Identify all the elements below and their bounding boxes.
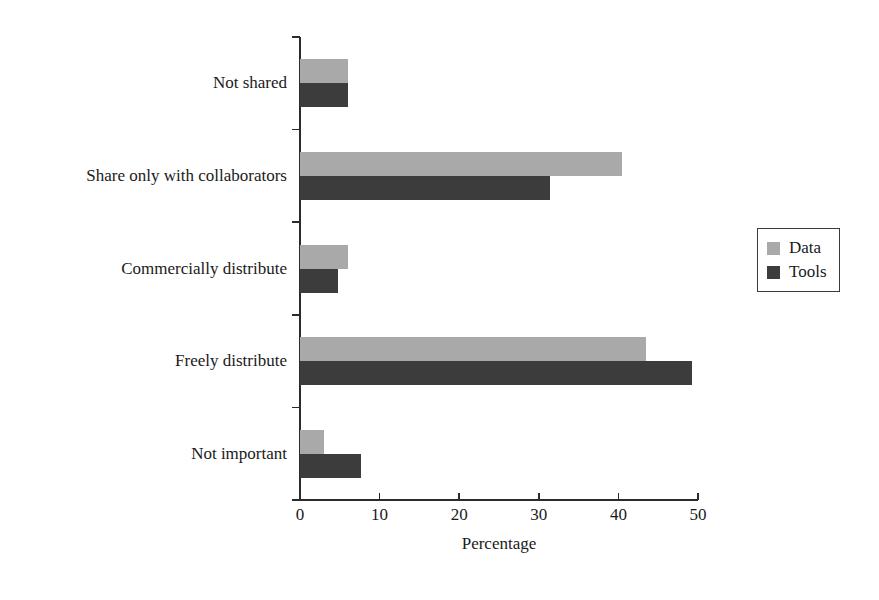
legend-item-data: Data — [767, 236, 827, 260]
bar-data-3 — [300, 337, 646, 361]
x-tick-label-0: 0 — [280, 505, 320, 525]
bar-tools-0 — [300, 83, 348, 107]
x-tick-40 — [618, 493, 620, 500]
y-tick-5 — [292, 499, 300, 501]
chart-legend: Data Tools — [757, 228, 840, 292]
bar-tools-2 — [300, 269, 338, 293]
bar-tools-3 — [300, 361, 692, 385]
bar-data-1 — [300, 152, 622, 176]
category-label-3: Freely distribute — [7, 351, 287, 371]
bar-data-0 — [300, 59, 348, 83]
bar-tools-1 — [300, 176, 550, 200]
legend-item-tools: Tools — [767, 260, 827, 284]
y-tick-4 — [292, 407, 300, 409]
legend-label-tools: Tools — [789, 262, 827, 282]
x-tick-label-30: 30 — [519, 505, 559, 525]
category-label-2: Commercially distribute — [7, 259, 287, 279]
legend-swatch-tools — [767, 266, 780, 279]
category-label-4: Not important — [7, 444, 287, 464]
x-tick-label-20: 20 — [439, 505, 479, 525]
y-tick-0 — [292, 36, 300, 38]
category-label-0: Not shared — [7, 73, 287, 93]
x-tick-10 — [379, 493, 381, 500]
x-tick-label-50: 50 — [678, 505, 718, 525]
y-tick-2 — [292, 221, 300, 223]
x-axis-line — [299, 499, 698, 501]
x-tick-50 — [697, 493, 699, 500]
x-axis-title: Percentage — [300, 534, 698, 554]
legend-swatch-data — [767, 242, 780, 255]
x-tick-20 — [458, 493, 460, 500]
bar-chart-figure: 01020304050 Not sharedShare only with co… — [0, 0, 879, 600]
x-tick-label-40: 40 — [598, 505, 638, 525]
legend-label-data: Data — [789, 238, 821, 258]
y-tick-1 — [292, 129, 300, 131]
x-tick-label-10: 10 — [360, 505, 400, 525]
bar-data-2 — [300, 245, 348, 269]
bar-data-4 — [300, 430, 324, 454]
x-tick-30 — [538, 493, 540, 500]
category-label-1: Share only with collaborators — [7, 166, 287, 186]
y-tick-3 — [292, 314, 300, 316]
bar-tools-4 — [300, 454, 361, 478]
